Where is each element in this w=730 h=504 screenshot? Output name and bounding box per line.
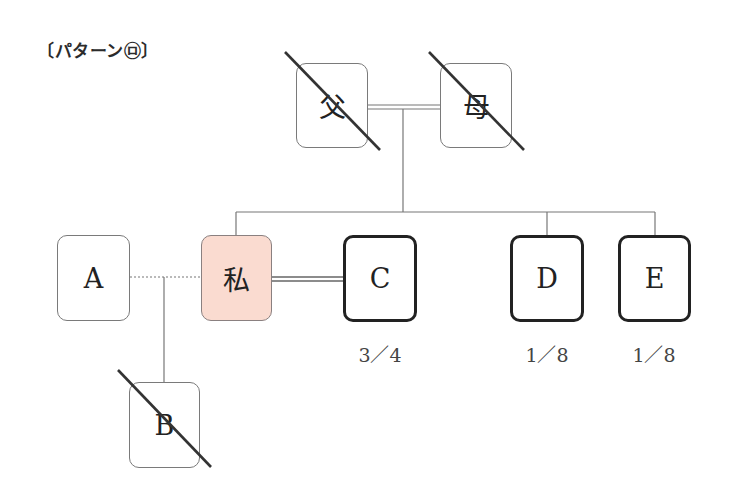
deceased-slash-b [118, 370, 211, 467]
deceased-slash-mother [429, 52, 524, 150]
deceased-slashes [0, 0, 730, 504]
deceased-slash-father [285, 52, 380, 150]
